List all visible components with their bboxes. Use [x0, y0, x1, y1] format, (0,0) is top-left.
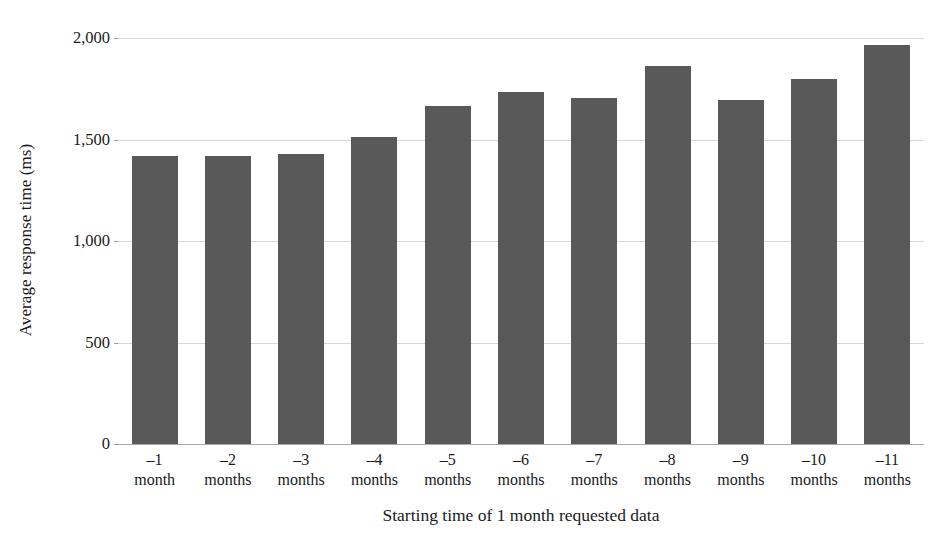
x-tick-label-line1: –3: [278, 450, 325, 470]
x-tick-label-line2: months: [864, 470, 911, 490]
bar--3-months[interactable]: [278, 154, 324, 444]
x-tick-label-line2: months: [717, 470, 764, 490]
x-tick-label-line2: months: [791, 470, 838, 490]
x-tick-label-line1: –2: [204, 450, 251, 470]
bar-slot: [631, 38, 704, 444]
y-axis-title: Average response time (ms): [0, 0, 52, 480]
x-tick-label-line1: –8: [644, 450, 691, 470]
bar-slot: [118, 38, 191, 444]
x-tick-label-6: –6months: [497, 450, 544, 490]
bar-slot: [191, 38, 264, 444]
x-tick-label-line2: months: [497, 470, 544, 490]
bar--10-months[interactable]: [791, 79, 837, 444]
x-tick-label-line2: month: [134, 470, 175, 490]
bar--5-months[interactable]: [425, 106, 471, 444]
bar--2-months[interactable]: [205, 156, 251, 444]
bar--11-months[interactable]: [864, 45, 910, 444]
bar--6-months[interactable]: [498, 92, 544, 444]
y-tick-label-2000: 2,000: [73, 28, 110, 48]
x-axis-title: Starting time of 1 month requested data: [118, 505, 924, 526]
x-tick-label-11: –11months: [864, 450, 911, 490]
x-tick-label-line1: –9: [717, 450, 764, 470]
x-tick-label-line1: –7: [571, 450, 618, 470]
x-tick-label-line2: months: [204, 470, 251, 490]
bar-slot: [411, 38, 484, 444]
bar--8-months[interactable]: [645, 66, 691, 444]
bar--1-month[interactable]: [132, 156, 178, 444]
x-tick-label-9: –9months: [717, 450, 764, 490]
y-axis-title-text: Average response time (ms): [16, 144, 36, 337]
bar-slot: [484, 38, 557, 444]
gridline-0: [118, 444, 924, 445]
bar-slot: [265, 38, 338, 444]
x-tick-label-5: –5months: [424, 450, 471, 490]
x-tick-label-7: –7months: [571, 450, 618, 490]
y-axis-tick-labels: 05001,0001,5002,000: [58, 38, 110, 444]
bar-slot: [851, 38, 924, 444]
x-tick-label-line1: –1: [134, 450, 175, 470]
x-tick-label-10: –10months: [791, 450, 838, 490]
bar-slot: [558, 38, 631, 444]
bar--4-months[interactable]: [351, 137, 397, 444]
x-axis-tick-labels: –1month–2months–3months–4months–5months–…: [118, 450, 924, 494]
x-tick-label-8: –8months: [644, 450, 691, 490]
y-tick-label-0: 0: [102, 434, 110, 454]
x-tick-label-3: –3months: [278, 450, 325, 490]
x-tick-label-line2: months: [571, 470, 618, 490]
x-tick-label-line1: –4: [351, 450, 398, 470]
bars-layer: [118, 38, 924, 444]
bar-slot: [777, 38, 850, 444]
x-tick-label-line1: –6: [497, 450, 544, 470]
bar-slot: [338, 38, 411, 444]
x-tick-label-1: –1month: [134, 450, 175, 490]
x-tick-label-2: –2months: [204, 450, 251, 490]
bar--7-months[interactable]: [571, 98, 617, 444]
x-tick-label-line2: months: [278, 470, 325, 490]
x-tick-label-line2: months: [351, 470, 398, 490]
bar--9-months[interactable]: [718, 100, 764, 444]
y-tick-label-1000: 1,000: [73, 231, 110, 251]
x-tick-label-line1: –10: [791, 450, 838, 470]
x-tick-label-4: –4months: [351, 450, 398, 490]
x-tick-label-line1: –11: [864, 450, 911, 470]
y-tick-label-1500: 1,500: [73, 130, 110, 150]
x-tick-label-line2: months: [644, 470, 691, 490]
x-tick-label-line1: –5: [424, 450, 471, 470]
bar-chart: Average response time (ms) 05001,0001,50…: [0, 0, 942, 550]
plot-area: [118, 38, 924, 444]
x-tick-label-line2: months: [424, 470, 471, 490]
y-tick-label-500: 500: [85, 333, 110, 353]
bar-slot: [704, 38, 777, 444]
